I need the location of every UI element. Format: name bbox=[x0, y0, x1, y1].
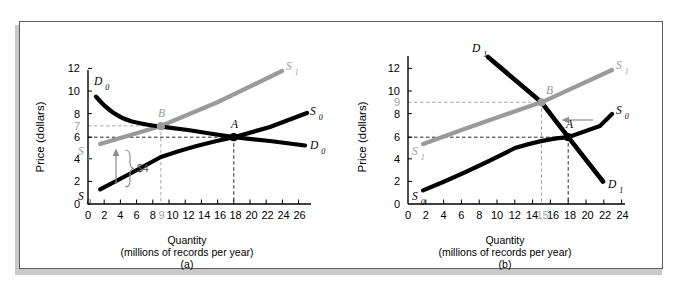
x-tick-label-20: 20 bbox=[245, 209, 257, 221]
x-tick-label-14: 14 bbox=[198, 209, 210, 221]
x-tick-label-6: 6 bbox=[458, 209, 464, 221]
x-tick-label-10: 10 bbox=[166, 209, 178, 221]
y-axis-title: Price (dollars) bbox=[34, 101, 46, 172]
x-tick-label-6: 6 bbox=[134, 209, 140, 221]
y-tick-label-7-highlight: 7 bbox=[74, 120, 80, 132]
x-tick-label-8: 8 bbox=[150, 209, 156, 221]
x-tick-label-8: 8 bbox=[476, 209, 482, 221]
y-tick-label-12: 12 bbox=[388, 62, 400, 74]
y-tick-label-12: 12 bbox=[68, 62, 80, 74]
panel-b-id: (b) bbox=[360, 258, 650, 270]
x-tick-label-24: 24 bbox=[616, 209, 628, 221]
curve-label-supply-1-right: S 1 bbox=[616, 59, 629, 76]
point-a-label: A bbox=[565, 118, 574, 130]
x-tick-label-0: 0 bbox=[405, 209, 411, 221]
x-tick-label-22: 22 bbox=[599, 209, 611, 221]
point-a-marker bbox=[230, 133, 238, 141]
x-tick-label-12: 12 bbox=[509, 209, 521, 221]
curve-demand-1 bbox=[488, 57, 603, 182]
y-tick-label-10: 10 bbox=[68, 85, 80, 97]
x-tick-label-22: 22 bbox=[261, 209, 273, 221]
x-tick-label-12: 12 bbox=[182, 209, 194, 221]
panel-a-plot: 0 2 4 6 7 8 10 12 0 2 4 6 8 9 10 12 14 1… bbox=[20, 22, 350, 232]
curve-demand-0 bbox=[96, 97, 305, 146]
y-tick-label-8: 8 bbox=[74, 108, 80, 120]
y-tick-label-2: 2 bbox=[74, 175, 80, 187]
y-tick-label-6: 6 bbox=[394, 131, 400, 143]
curve-label-supply-1-right: S 1 bbox=[286, 60, 299, 77]
x-tick-label-0: 0 bbox=[85, 209, 91, 221]
point-b-label: B bbox=[546, 84, 553, 96]
shift-amount-label: $4 bbox=[137, 162, 149, 174]
panel-a-id: (a) bbox=[42, 258, 332, 270]
point-b-marker bbox=[157, 122, 165, 130]
x-tick-label-2: 2 bbox=[423, 209, 429, 221]
x-tick-label-20: 20 bbox=[581, 209, 593, 221]
y-tick-label-9-highlight: 9 bbox=[394, 96, 400, 108]
curve-label-demand-1-bottom: D 1 bbox=[607, 178, 623, 195]
panel-a-axis-title-line2: (millions of records per year) bbox=[42, 246, 332, 258]
curve-label-demand-0-right: D 0 bbox=[309, 139, 325, 156]
y-tick-label-0: 0 bbox=[394, 198, 400, 210]
point-a-marker bbox=[564, 133, 572, 141]
panel-b-caption: Quantity (millions of records per year) … bbox=[360, 234, 650, 270]
y-tick-label-4: 4 bbox=[394, 153, 400, 165]
curve-supply-0 bbox=[100, 113, 307, 189]
curve-label-demand-1-top: D 1 bbox=[471, 42, 487, 59]
panel-b: 0 2 4 6 8 9 10 12 0 2 4 6 8 10 12 14 15 … bbox=[350, 22, 663, 270]
panel-b-axis-title-line2: (millions of records per year) bbox=[360, 246, 650, 258]
curve-label-demand-0-left: D 0 bbox=[93, 75, 109, 92]
y-tick-label-8: 8 bbox=[394, 108, 400, 120]
panel-a-caption: Quantity (millions of records per year) … bbox=[42, 234, 332, 270]
curve-label-supply-0-right: S 0 bbox=[616, 104, 629, 121]
x-tick-label-26: 26 bbox=[293, 209, 305, 221]
figure-container: 0 2 4 6 7 8 10 12 0 2 4 6 8 9 10 12 14 1… bbox=[0, 0, 677, 289]
point-a-label: A bbox=[230, 118, 239, 130]
x-tick-label-24: 24 bbox=[277, 209, 289, 221]
x-tick-label-2: 2 bbox=[101, 209, 107, 221]
x-tick-label-4: 4 bbox=[117, 209, 123, 221]
y-axis-title: Price (dollars) bbox=[356, 101, 368, 172]
x-tick-label-18: 18 bbox=[564, 209, 576, 221]
y-tick-label-10: 10 bbox=[388, 85, 400, 97]
x-tick-label-9-highlight: 9 bbox=[159, 209, 165, 221]
x-tick-label-4: 4 bbox=[441, 209, 447, 221]
panel-b-axis-title-line1: Quantity bbox=[360, 234, 650, 246]
panel-a-axis-title-line1: Quantity bbox=[42, 234, 332, 246]
curve-label-supply-1-left: S 1 bbox=[412, 145, 425, 162]
panel-a: 0 2 4 6 7 8 10 12 0 2 4 6 8 9 10 12 14 1… bbox=[20, 22, 350, 270]
y-tick-label-6: 6 bbox=[74, 131, 80, 143]
point-b-label: B bbox=[158, 107, 165, 119]
point-b-marker bbox=[537, 98, 545, 106]
x-tick-label-10: 10 bbox=[491, 209, 503, 221]
x-tick-label-16: 16 bbox=[214, 209, 226, 221]
x-tick-label-18: 18 bbox=[229, 209, 241, 221]
figure-frame: 0 2 4 6 7 8 10 12 0 2 4 6 8 9 10 12 14 1… bbox=[19, 21, 663, 269]
y-tick-label-2: 2 bbox=[394, 175, 400, 187]
shift-annotation-brace bbox=[125, 150, 134, 187]
curve-label-supply-0-right: S 0 bbox=[310, 105, 323, 122]
panel-b-plot: 0 2 4 6 8 9 10 12 0 2 4 6 8 10 12 14 15 … bbox=[350, 22, 663, 232]
curve-supply-0 bbox=[423, 114, 612, 190]
x-tick-label-16: 16 bbox=[547, 209, 559, 221]
